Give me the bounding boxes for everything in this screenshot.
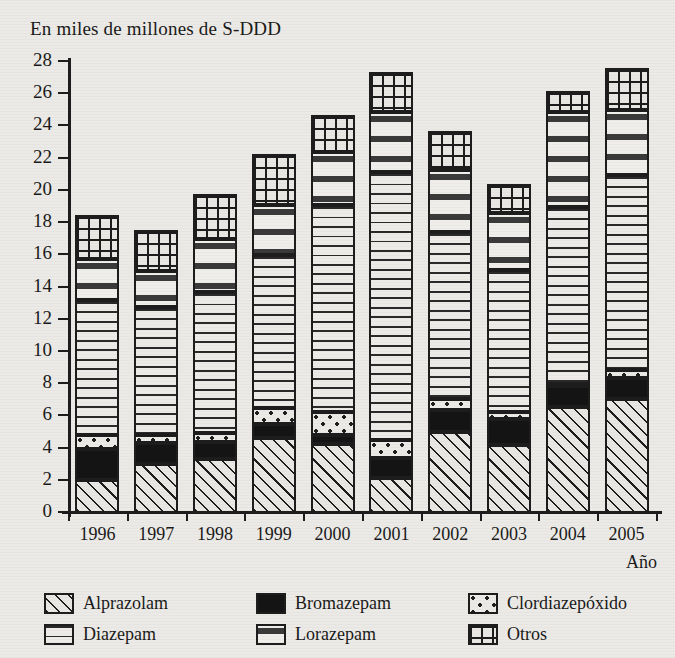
- bar-segment-otros: [487, 184, 531, 213]
- y-axis-tick-label: 12: [33, 308, 52, 327]
- bar-segment-lorazepam: [193, 239, 237, 292]
- bar-segment-clordiazepxido: [134, 435, 178, 443]
- x-axis-tick: [538, 511, 540, 521]
- legend-label: Otros: [507, 624, 547, 645]
- legend-item-diazepam[interactable]: Diazepam: [44, 624, 256, 645]
- chart-figure: En miles de millones de S-DDD 0246810121…: [0, 0, 675, 658]
- dots-swatch: [468, 593, 498, 614]
- y-axis-tick-label: 20: [33, 179, 52, 198]
- y-axis-tick-label: 28: [33, 50, 52, 69]
- x-axis-tick: [480, 511, 482, 521]
- bar-2005[interactable]: [605, 68, 649, 513]
- bar-segment-diazepam: [252, 255, 296, 408]
- y-axis-tick: 10: [58, 350, 68, 352]
- bar-segment-alprazolam: [311, 444, 355, 513]
- y-axis-tick: 20: [58, 189, 68, 191]
- bar-segment-clordiazepxido: [428, 399, 472, 409]
- bar-segment-otros: [369, 72, 413, 112]
- chart-title: En miles de millones de S-DDD: [30, 18, 281, 40]
- y-axis-tick: 22: [58, 157, 68, 159]
- x-axis-label-2005: 2005: [592, 524, 662, 545]
- bar-segment-clordiazepxido: [311, 412, 355, 435]
- bar-segment-alprazolam: [487, 445, 531, 513]
- bar-segment-clordiazepxido: [487, 412, 531, 419]
- bar-segment-otros: [75, 215, 119, 259]
- bar-segment-clordiazepxido: [605, 370, 649, 378]
- y-axis-tick-label: 24: [33, 115, 52, 134]
- y-axis-tick-label: 10: [33, 340, 52, 359]
- bar-segment-lorazepam: [311, 152, 355, 205]
- bar-2000[interactable]: [311, 115, 355, 513]
- legend-item-lorazepam[interactable]: Lorazepam: [256, 624, 468, 645]
- bar-segment-alprazolam: [546, 407, 590, 513]
- legend-item-alprazolam[interactable]: Alprazolam: [44, 593, 256, 614]
- bar-segment-otros: [428, 131, 472, 170]
- bar-segment-diazepam: [369, 172, 413, 440]
- y-axis-tick-label: 0: [43, 501, 53, 520]
- bar-segment-lorazepam: [134, 271, 178, 306]
- bar-segment-bromazepam: [252, 424, 296, 438]
- bar-segment-clordiazepxido: [75, 435, 119, 449]
- bar-segment-bromazepam: [546, 386, 590, 407]
- bar-segment-otros: [193, 194, 237, 239]
- legend-label: Lorazepam: [295, 624, 376, 645]
- bar-segment-bromazepam: [193, 442, 237, 459]
- bar-segment-lorazepam: [605, 110, 649, 174]
- bar-segment-bromazepam: [134, 443, 178, 464]
- y-axis-tick: 28: [58, 60, 68, 62]
- bar-segment-clordiazepxido: [369, 440, 413, 459]
- horizontal-lines-swatch: [44, 624, 74, 645]
- legend-item-otros[interactable]: Otros: [468, 624, 668, 645]
- y-axis-tick: 0: [58, 511, 68, 513]
- legend-label: Alprazolam: [83, 593, 168, 614]
- y-axis-tick-label: 6: [43, 404, 53, 423]
- bar-1998[interactable]: [193, 194, 237, 513]
- legend-label: Clordiazepóxido: [507, 593, 627, 614]
- bar-segment-lorazepam: [487, 213, 531, 269]
- legend-item-bromazepam[interactable]: Bromazepam: [256, 593, 468, 614]
- bar-2004[interactable]: [546, 91, 590, 513]
- bar-1997[interactable]: [134, 230, 178, 513]
- bar-segment-alprazolam: [75, 480, 119, 513]
- y-axis-tick: 24: [58, 124, 68, 126]
- x-axis-tick: [362, 511, 364, 521]
- y-axis-tick: 12: [58, 318, 68, 320]
- x-axis-tick: [68, 511, 70, 521]
- plot-area: 0246810121416182022242628: [68, 62, 656, 513]
- bar-segment-diazepam: [134, 307, 178, 435]
- bar-segment-alprazolam: [134, 464, 178, 513]
- bar-segment-otros: [311, 115, 355, 152]
- y-axis-tick: 4: [58, 447, 68, 449]
- y-axis-tick-label: 18: [33, 211, 52, 230]
- y-axis-tick-label: 22: [33, 147, 52, 166]
- bar-segment-diazepam: [605, 175, 649, 370]
- legend-item-clordiazepxido[interactable]: Clordiazepóxido: [468, 593, 668, 614]
- bar-2001[interactable]: [369, 72, 413, 513]
- bar-segment-alprazolam: [369, 478, 413, 513]
- x-axis-tick: [186, 511, 188, 521]
- bar-segment-bromazepam: [75, 449, 119, 480]
- diagonal-hatch-swatch: [44, 593, 74, 614]
- bar-segment-lorazepam: [369, 112, 413, 172]
- x-axis-tick: [127, 511, 129, 521]
- bar-1999[interactable]: [252, 154, 296, 513]
- y-axis-tick-label: 14: [33, 276, 52, 295]
- bar-segment-alprazolam: [252, 438, 296, 513]
- y-axis-tick: 16: [58, 253, 68, 255]
- bar-segment-bromazepam: [369, 458, 413, 477]
- bar-segment-clordiazepxido: [252, 408, 296, 424]
- bar-segment-bromazepam: [428, 410, 472, 432]
- bar-segment-clordiazepxido: [193, 433, 237, 442]
- bar-2002[interactable]: [428, 131, 472, 513]
- bar-1996[interactable]: [75, 215, 119, 513]
- bar-segment-diazepam: [546, 207, 590, 384]
- bar-segment-bromazepam: [605, 378, 649, 399]
- grid-swatch: [468, 624, 498, 645]
- bar-segment-diazepam: [193, 292, 237, 433]
- legend-label: Bromazepam: [295, 593, 391, 614]
- y-axis-tick: 14: [58, 286, 68, 288]
- bar-segment-alprazolam: [428, 432, 472, 513]
- y-axis-tick: 6: [58, 414, 68, 416]
- bar-2003[interactable]: [487, 184, 531, 513]
- bar-segment-lorazepam: [75, 259, 119, 299]
